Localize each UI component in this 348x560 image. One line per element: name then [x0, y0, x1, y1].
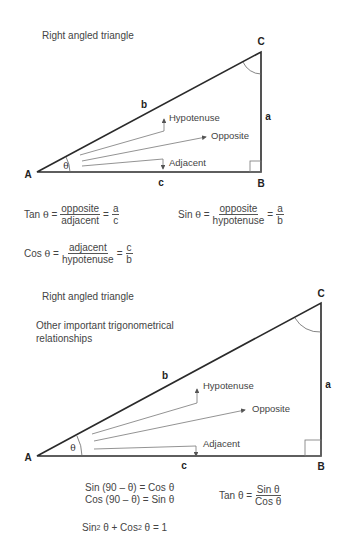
- side-a-label: a: [325, 379, 331, 390]
- diagram-2-subtitle-line2: relationships: [36, 333, 92, 344]
- equals: =: [204, 209, 210, 220]
- denominator: hypotenuse: [213, 215, 265, 226]
- tan-formula: Tan θ = oppositeadjacent = ac: [24, 203, 122, 226]
- cos-fraction: adjacenthypotenuse: [62, 242, 114, 265]
- cos-lhs: Cos: [24, 248, 42, 259]
- adjacent-arrow-label: Adjacent: [203, 438, 240, 449]
- tan-fraction: Sin θCos θ: [255, 484, 281, 507]
- triangle-diagrams: [0, 0, 348, 560]
- equals: =: [117, 248, 123, 259]
- numerator: a: [112, 203, 120, 215]
- diagram-2-title: Right angled triangle: [42, 291, 134, 302]
- vertex-a-label: A: [24, 169, 31, 180]
- vertex-b-label: B: [257, 178, 264, 189]
- sin-lhs: Sin: [178, 209, 192, 220]
- sin-complement-formula: Sin (90 – θ) = Cos θ: [85, 482, 174, 493]
- cos-term: θ + Cos: [100, 522, 138, 533]
- equals: =: [53, 248, 59, 259]
- vertex-a-label: A: [24, 452, 31, 463]
- hypotenuse-arrow-label: Hypotenuse: [203, 380, 254, 391]
- opposite-arrow-label: Opposite: [252, 403, 290, 414]
- denominator: c: [113, 215, 118, 226]
- numerator: opposite: [219, 203, 259, 215]
- result-term: θ = 1: [142, 522, 167, 533]
- numerator: Sin θ: [256, 484, 281, 496]
- hypotenuse-arrow-label: Hypotenuse: [169, 112, 220, 123]
- opposite-arrow-label: Opposite: [211, 130, 249, 141]
- side-a-label: a: [265, 111, 271, 122]
- theta-label: θ: [63, 161, 68, 171]
- theta-label: θ: [70, 443, 75, 453]
- cos-complement-formula: Cos (90 – θ) = Sin θ: [85, 494, 174, 505]
- pythagorean-identity: Sin2 θ + Cos2 θ = 1: [82, 522, 167, 533]
- triangle-1: [37, 52, 261, 172]
- tan-ratio: ac: [112, 203, 120, 226]
- diagram-2-subtitle-line1: Other important trigonometrical: [36, 320, 174, 331]
- vertex-c-label: C: [257, 36, 264, 47]
- cos-formula: Cos θ = adjacenthypotenuse = cb: [24, 242, 136, 265]
- side-c-label: c: [181, 460, 187, 471]
- tan-sin-cos-formula: Tan θ = Sin θCos θ: [219, 484, 284, 507]
- numerator: adjacent: [68, 242, 108, 254]
- diagram-1-title: Right angled triangle: [42, 30, 134, 41]
- side-b-label: b: [162, 370, 168, 381]
- denominator: b: [277, 215, 283, 226]
- side-b-label: b: [141, 99, 147, 110]
- denominator: Cos θ: [255, 496, 281, 507]
- theta-symbol: θ: [195, 209, 201, 220]
- denominator: hypotenuse: [62, 254, 114, 265]
- sin-formula: Sin θ = oppositehypotenuse = ab: [178, 203, 287, 226]
- sin-term: Sin: [82, 522, 96, 533]
- adjacent-arrow-label: Adjacent: [169, 157, 206, 168]
- numerator: opposite: [60, 203, 100, 215]
- theta-symbol: θ: [45, 248, 51, 259]
- theta-symbol: θ: [43, 209, 49, 220]
- equals: =: [267, 209, 273, 220]
- equals: =: [51, 209, 57, 220]
- side-c-label: c: [158, 177, 164, 188]
- vertex-c-label: C: [317, 288, 324, 299]
- denominator: adjacent: [61, 215, 99, 226]
- numerator: c: [126, 242, 133, 254]
- tan-lhs: Tan θ =: [219, 490, 252, 501]
- denominator: b: [126, 254, 132, 265]
- equals: =: [103, 209, 109, 220]
- tan-fraction: oppositeadjacent: [60, 203, 100, 226]
- vertex-b-label: B: [317, 461, 324, 472]
- sin-ratio: ab: [276, 203, 284, 226]
- tan-lhs: Tan: [24, 209, 40, 220]
- sin-fraction: oppositehypotenuse: [213, 203, 265, 226]
- cos-ratio: cb: [126, 242, 133, 265]
- numerator: a: [276, 203, 284, 215]
